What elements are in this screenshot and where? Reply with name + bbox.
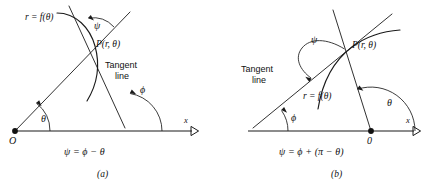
- panel-b-axis-label: x: [406, 116, 410, 125]
- panel-b-radius-vector: [333, 10, 371, 131]
- panel-a-curve: [57, 13, 98, 101]
- panel-b-origin-dot: [368, 128, 374, 134]
- panel-b-equation: ψ = ϕ + (π − θ): [279, 147, 344, 157]
- panel-a-origin-label: O: [9, 136, 16, 146]
- panel-b-tangent-label-line2: line: [252, 75, 266, 85]
- panel-a-equation: ψ = ϕ − θ: [64, 147, 105, 157]
- figure-drawing: [0, 0, 432, 187]
- panel-b-phi-label: ϕ: [291, 113, 296, 123]
- panel-a-curve-label: r = f(θ): [25, 13, 54, 23]
- panel-a-radius-vector: [15, 12, 130, 131]
- panel-b-tangent-line: [253, 14, 392, 128]
- panel-a-tangent-label-line1: Tangent: [105, 60, 137, 70]
- panel-a-x-axis-arrowhead: [191, 126, 199, 135]
- panel-b-phi-arc: [282, 111, 289, 132]
- panel-b-point-label: P(r, θ): [352, 41, 376, 51]
- panel-a-origin-dot: [12, 128, 18, 134]
- panel-b-psi-label: ψ: [311, 35, 317, 45]
- panel-b-theta-label: θ: [387, 98, 392, 108]
- figure-root: r = f(θ) P(r, θ) Tangent line ψ ϕ θ O x …: [0, 0, 432, 187]
- panel-a-point-label: P(r, θ): [96, 40, 120, 50]
- panel-a-phi-arc: [130, 94, 162, 132]
- panel-b-tangent-label-line1: Tangent: [241, 64, 273, 74]
- panel-a-tangent-label-line2: line: [115, 71, 129, 81]
- panel-a-axis-label: x: [184, 116, 188, 125]
- panel-a-caption: (a): [97, 170, 108, 180]
- panel-b-curve-label: r = f(θ): [303, 92, 332, 102]
- panel-a-theta-label: θ: [41, 114, 46, 124]
- panel-a-psi-label: ψ: [94, 21, 100, 31]
- panel-b-origin-label: 0: [367, 136, 372, 146]
- panel-b-caption: (b): [331, 170, 342, 180]
- panel-b-graphics: [248, 10, 421, 136]
- panel-a-phi-label: ϕ: [140, 85, 145, 95]
- panel-b-x-axis-arrowhead: [413, 126, 421, 135]
